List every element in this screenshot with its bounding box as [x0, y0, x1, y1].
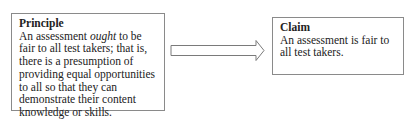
claim-box: Claim An assessment is fair to all test … [272, 17, 404, 75]
principle-text: An assessment ought to be fair to all te… [19, 30, 158, 120]
right-arrow-icon [168, 38, 268, 64]
claim-text: An assessment is fair to all test takers… [280, 34, 397, 60]
principle-box: Principle An assessment ought to be fair… [11, 13, 165, 111]
principle-text-emphasis: ought [90, 30, 116, 42]
principle-text-start: An assessment [19, 30, 90, 42]
principle-title: Principle [19, 17, 158, 30]
claim-title: Claim [280, 21, 397, 34]
principle-text-end: to be fair to all test takers; that is, … [19, 30, 155, 119]
